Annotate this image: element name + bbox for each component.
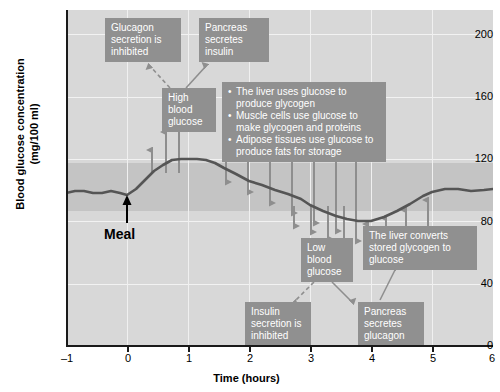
callout-glucagon-inhibited-text: Glucagon secretion is inhibited [111,22,162,57]
meal-label: Meal [104,226,135,242]
callout-pancreas-glucagon-text: Pancreas secretes glucagon [364,306,406,341]
x-tick-5: 5 [413,352,453,364]
x-axis-label: Time (hours) [0,372,493,384]
y-tick-120: 120 [433,153,493,164]
insulin-effects-list: The liver uses glucose to produce glycog… [228,86,380,158]
y-tick-0: 0 [433,340,493,351]
x-tick-2: 2 [230,352,270,364]
insulin-effect-item: Adipose tissues use glucose to produce f… [228,134,380,158]
callout-liver-converts: The liver converts stored glycogen to gl… [363,226,477,270]
x-tickmark-3 [310,347,312,352]
callout-liver-converts-text: The liver converts stored glycogen to gl… [369,230,451,265]
x-tickmark-2 [249,347,251,352]
callout-pancreas-insulin: Pancreas secretes insulin [199,18,269,62]
callout-insulin-inhibited-text: Insulin secretion is inhibited [251,306,302,341]
x-tickmark-5 [432,347,434,352]
y-axis-label: Blood glucose concentration (mg/100 ml) [13,34,41,234]
callout-low-blood-glucose-text: Low blood glucose [307,242,341,277]
x-tick-0: 0 [108,352,148,364]
callout-low-blood-glucose: Low blood glucose [301,238,353,282]
insulin-effect-item: The liver uses glucose to produce glycog… [228,86,380,110]
callout-pancreas-glucagon: Pancreas secretes glucagon [358,302,424,345]
callout-insulin-inhibited: Insulin secretion is inhibited [245,302,311,345]
x-tick-3: 3 [291,352,331,364]
x-tickmark-0 [127,347,129,352]
meal-arrow [123,195,132,223]
callout-high-blood-glucose-text: High blood glucose [168,92,202,127]
callout-pancreas-insulin-text: Pancreas secretes insulin [205,22,247,57]
x-axis-line [66,345,493,347]
insulin-effect-item: Muscle cells use glucose to make glycoge… [228,110,380,134]
y-axis-line [66,10,68,347]
y-tick-80: 80 [433,216,493,227]
flux-arrows-down [226,160,356,246]
y-axis-label-line1: Blood glucose concentration [14,58,26,210]
x-tickmark-4 [371,347,373,352]
x-tick-4: 4 [352,352,392,364]
y-axis-label-line2: (mg/100 ml) [28,103,40,164]
callout-insulin-effects: The liver uses glucose to produce glycog… [222,82,386,162]
callout-high-blood-glucose: High blood glucose [162,88,216,132]
x-tick-1: 1 [169,352,209,364]
connector-arrows-high [150,66,206,88]
callout-glucagon-inhibited: Glucagon secretion is inhibited [105,18,181,62]
y-tick-160: 160 [433,91,493,102]
plot-area: Glucagon secretion is inhibited Pancreas… [66,10,493,345]
x-tick-minus1: –1 [47,352,87,364]
x-tickmark-1 [188,347,190,352]
y-tick-200: 200 [433,29,493,40]
x-tick-6: 6 [472,352,500,364]
y-tick-40: 40 [433,278,493,289]
